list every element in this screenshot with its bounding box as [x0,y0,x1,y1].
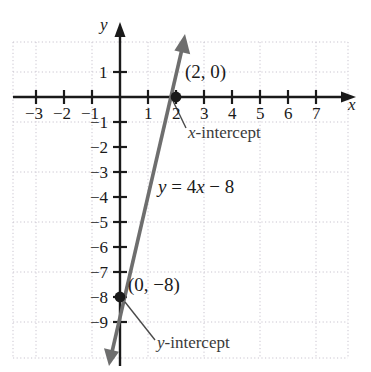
x-tick-label--3: −3 [25,105,43,122]
point-x-intercept [171,92,182,103]
y-tick-label--4: −4 [90,189,108,206]
y-tick-label--5: −5 [90,214,108,231]
x-intercept-annotation: x-intercept [188,124,261,141]
x-tick-label-6: 6 [284,105,293,122]
equation-label-tail: − 8 [205,176,235,197]
y-intercept-leader-line [125,302,155,340]
point-label-y-intercept: (0, −8) [128,275,180,294]
y-intercept-annotation-text: -intercept [165,333,230,352]
equation-label-x: x [196,176,204,197]
x-tick-label-2: 2 [172,105,181,122]
x-tick-label-5: 5 [256,105,265,122]
x-tick-label-4: 4 [228,105,237,122]
y-tick-label--3: −3 [90,164,108,181]
line-graph [104,34,190,366]
x-intercept-annotation-text: -intercept [196,123,261,142]
y-tick-label--7: −7 [90,264,108,281]
equation-label: y = 4x − 8 [158,177,234,196]
x-tick-label-3: 3 [200,105,209,122]
y-tick-label--9: −9 [90,314,108,331]
y-tick-label--6: −6 [90,239,108,256]
y-intercept-annotation-variable: y [157,333,165,352]
y-intercept-annotation: y-intercept [157,334,230,351]
x-tick-label--2: −2 [53,105,71,122]
point-label-x-intercept: (2, 0) [185,62,226,81]
x-tick-label-1: 1 [144,105,153,122]
y-tick-label--1: −1 [90,114,108,131]
point-y-intercept [115,292,126,303]
x-tick-label-7: 7 [312,105,321,122]
grid-lines [13,42,348,358]
x-axis-label: x [348,96,356,113]
graph-figure: y x −3 −2 −1 1 2 3 4 5 6 7 1 −1 −2 −3 −4… [0,0,371,372]
y-tick-label-1: 1 [99,64,108,81]
y-axis-label: y [100,16,108,33]
equation-label-eq: = 4 [166,176,196,197]
x-intercept-annotation-variable: x [188,123,196,142]
y-tick-label--2: −2 [90,139,108,156]
y-tick-label--8: −8 [90,289,108,306]
